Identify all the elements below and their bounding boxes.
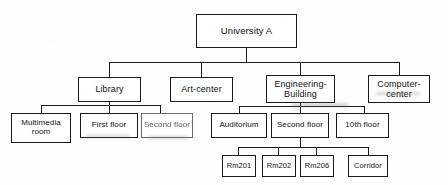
edge-drop-engineering — [300, 62, 301, 75]
edge-drop-corridor — [368, 147, 369, 155]
edge-drop-auditorium — [239, 106, 240, 113]
edge-level2-bus — [109, 62, 400, 63]
edge-drop-multimedia — [41, 105, 42, 113]
edge-drop-rm201 — [238, 147, 239, 155]
node-rm202[interactable]: Rm202 — [262, 155, 296, 177]
edge-library-bus — [41, 105, 160, 106]
edge-rooms-bus — [238, 147, 368, 148]
edge-drop-second-floor-lib — [160, 105, 161, 113]
node-art-center[interactable]: Art-center — [170, 77, 233, 102]
node-first-floor[interactable]: First floor — [80, 113, 138, 138]
edge-drop-art-center — [201, 62, 202, 77]
edge-drop-rm206 — [316, 147, 317, 155]
edge-drop-library — [109, 62, 110, 77]
edge-second-floor-stem — [300, 137, 301, 147]
node-library[interactable]: Library — [78, 77, 141, 102]
node-tenth-floor[interactable]: 10th floor — [336, 113, 389, 138]
edge-drop-computer — [399, 62, 400, 75]
node-computer-center[interactable]: Computer- center — [368, 75, 430, 103]
edge-drop-first-floor — [109, 105, 110, 113]
node-second-floor-engineering[interactable]: Second floor — [271, 113, 329, 138]
node-rm206[interactable]: Rm206 — [300, 155, 334, 177]
edge-engineering-bus — [239, 106, 364, 107]
node-university-a[interactable]: University A — [196, 14, 297, 48]
edge-drop-tenth-floor — [364, 106, 365, 113]
edge-drop-rm202 — [278, 147, 279, 155]
edge-root-stem — [246, 48, 247, 62]
node-engineering-building[interactable]: Engineering- Building — [266, 75, 335, 103]
node-rm201[interactable]: Rm201 — [222, 155, 256, 177]
node-second-floor-library[interactable]: Second floor — [141, 113, 193, 138]
edge-drop-second-floor-eng — [300, 106, 301, 113]
scan-smudge-engineering-bus — [292, 103, 348, 107]
node-auditorium[interactable]: Auditorium — [211, 113, 267, 138]
edge-engineering-stem — [300, 103, 301, 107]
org-chart-diagram: University A Library Art-center Engineer… — [0, 0, 448, 185]
node-multimedia-room[interactable]: Multimedia room — [11, 113, 71, 143]
node-corridor[interactable]: Corridor — [348, 155, 388, 177]
